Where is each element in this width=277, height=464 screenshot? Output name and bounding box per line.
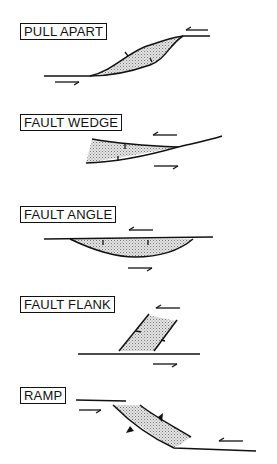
fault-wedge-diagram [0, 100, 277, 200]
arrow-right-icon [154, 166, 178, 169]
ramp-diagram [0, 365, 277, 464]
arrow-left-icon [156, 305, 180, 308]
arrow-left-icon [186, 27, 208, 30]
fault-flank-diagram [0, 280, 277, 370]
fault-angle-diagram [0, 195, 277, 285]
arrow-right-icon [79, 410, 101, 413]
arrow-left-icon [129, 227, 153, 230]
arrow-right-icon [128, 268, 152, 271]
arrow-left-icon [219, 438, 243, 441]
arrow-right-icon [55, 82, 79, 85]
thrust-tooth-icon [126, 426, 134, 433]
pull-apart-diagram [0, 0, 277, 100]
arrow-left-icon [153, 132, 177, 135]
